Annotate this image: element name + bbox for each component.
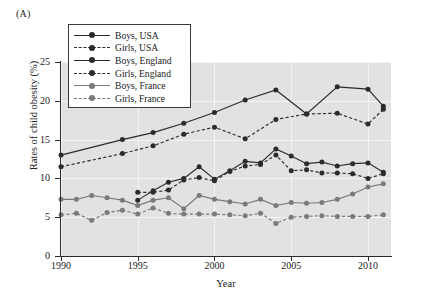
data-point-marker	[381, 171, 386, 176]
data-point-marker	[365, 176, 370, 181]
y-tick-mark	[55, 62, 60, 63]
x-axis-line	[60, 256, 392, 257]
data-point-marker	[304, 111, 309, 116]
data-point-marker	[365, 160, 370, 165]
y-tick-mark	[55, 101, 60, 102]
data-point-marker	[166, 211, 171, 216]
data-point-marker	[335, 111, 340, 116]
data-point-marker	[335, 163, 340, 168]
data-point-marker	[243, 163, 248, 168]
series-girls-england	[135, 153, 386, 195]
y-tick-label: 5	[16, 211, 50, 222]
x-axis-title: Year	[61, 278, 391, 289]
series-girls-france	[59, 205, 386, 226]
data-point-marker	[166, 188, 171, 193]
data-point-marker	[243, 213, 248, 218]
data-point-marker	[350, 171, 355, 176]
x-tick-label: 2010	[348, 260, 388, 271]
data-point-marker	[319, 213, 324, 218]
data-point-marker	[289, 200, 294, 205]
data-point-marker	[197, 193, 202, 198]
figure-panel-a: (A) Rates of child obesity (%) Year 0510…	[0, 0, 424, 301]
data-point-marker	[74, 197, 79, 202]
data-point-marker	[350, 161, 355, 166]
data-point-marker	[258, 197, 263, 202]
data-point-marker	[212, 125, 217, 130]
data-point-marker	[304, 167, 309, 172]
data-point-marker	[273, 87, 278, 92]
data-point-marker	[181, 206, 186, 211]
data-point-marker	[227, 212, 232, 217]
data-point-marker	[273, 153, 278, 158]
data-point-marker	[273, 117, 278, 122]
x-tick-label: 2000	[194, 260, 234, 271]
data-point-marker	[181, 121, 186, 126]
data-point-marker	[120, 151, 125, 156]
legend-label: Boys, England	[110, 55, 172, 66]
data-point-marker	[289, 168, 294, 173]
data-point-marker	[151, 130, 156, 135]
series-girls-usa	[59, 107, 386, 169]
legend-label: Girls, England	[110, 68, 171, 79]
data-point-marker	[105, 210, 110, 215]
data-point-marker	[166, 180, 171, 185]
legend-swatch-icon	[74, 92, 110, 104]
legend-label: Boys, France	[110, 80, 166, 91]
x-tick-label: 1990	[41, 260, 81, 271]
data-point-marker	[319, 200, 324, 205]
data-point-marker	[212, 212, 217, 217]
data-point-marker	[289, 153, 294, 158]
data-point-marker	[243, 202, 248, 207]
data-point-marker	[243, 98, 248, 103]
data-point-marker	[381, 107, 386, 112]
legend-swatch-icon	[74, 29, 110, 41]
data-point-marker	[365, 87, 370, 92]
data-point-marker	[166, 195, 171, 200]
data-point-marker	[273, 221, 278, 226]
legend-item[interactable]: Girls, USA	[74, 42, 185, 55]
panel-label: (A)	[16, 8, 30, 19]
legend-item[interactable]: Girls, France	[74, 92, 185, 105]
legend-item[interactable]: Boys, USA	[74, 29, 185, 42]
data-point-marker	[74, 211, 79, 216]
legend-item[interactable]: Boys, France	[74, 79, 185, 92]
y-axis-line	[60, 61, 61, 257]
data-point-marker	[212, 110, 217, 115]
data-point-marker	[135, 212, 140, 217]
data-point-marker	[151, 143, 156, 148]
legend-item[interactable]: Boys, England	[74, 54, 185, 67]
legend-marker-icon	[89, 70, 95, 76]
data-point-marker	[212, 197, 217, 202]
x-tick-label: 1995	[118, 260, 158, 271]
legend-label: Girls, USA	[110, 42, 158, 53]
data-point-marker	[105, 195, 110, 200]
data-point-marker	[365, 214, 370, 219]
legend-swatch-icon	[74, 54, 110, 66]
data-point-marker	[335, 214, 340, 219]
data-point-marker	[273, 203, 278, 208]
data-point-marker	[319, 160, 324, 165]
y-tick-label: 15	[16, 134, 50, 145]
data-point-marker	[135, 198, 140, 203]
data-point-marker	[381, 212, 386, 217]
legend-label: Boys, USA	[110, 30, 159, 41]
data-point-marker	[151, 190, 156, 195]
series-boys-france	[59, 181, 386, 211]
x-tick-label: 2005	[271, 260, 311, 271]
legend-marker-icon	[89, 57, 95, 63]
legend-label: Girls, France	[110, 93, 165, 104]
y-tick-mark	[55, 256, 60, 257]
legend-marker-icon	[89, 32, 95, 38]
data-point-marker	[120, 198, 125, 203]
data-point-marker	[243, 136, 248, 141]
legend-item[interactable]: Girls, England	[74, 67, 185, 80]
data-point-marker	[135, 203, 140, 208]
data-point-marker	[135, 190, 140, 195]
legend-swatch-icon	[74, 80, 110, 92]
data-point-marker	[120, 137, 125, 142]
data-point-marker	[151, 198, 156, 203]
data-point-marker	[212, 178, 217, 183]
data-point-marker	[120, 208, 125, 213]
data-point-marker	[350, 214, 355, 219]
series-line	[61, 109, 383, 166]
